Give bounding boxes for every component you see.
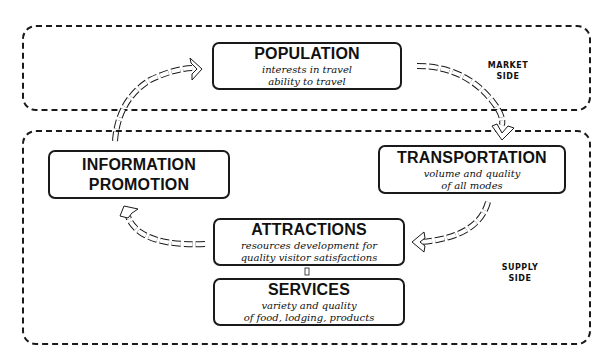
population-title: POPULATION — [254, 44, 360, 64]
node-attractions: ATTRACTIONS resources development for qu… — [213, 218, 405, 266]
node-services: SERVICES variety and quality of food, lo… — [213, 278, 405, 326]
arrow-population-to-transportation — [417, 66, 514, 140]
services-sub-2: of food, lodging, products — [244, 312, 375, 324]
node-population: POPULATION interests in travel ability t… — [212, 42, 402, 90]
transportation-sub-1: volume and quality — [424, 168, 521, 180]
population-sub-2: ability to travel — [268, 76, 346, 88]
attractions-title: ATTRACTIONS — [251, 220, 367, 240]
node-transportation: TRANSPORTATION volume and quality of all… — [378, 145, 566, 194]
attractions-sub-1: resources development for — [241, 240, 377, 252]
arrow-information-to-population — [115, 58, 202, 141]
connector-attractions-services — [305, 268, 309, 275]
arrow-attractions-to-information — [120, 206, 205, 244]
arrowhead-up-left-icon — [120, 206, 138, 218]
arrow-transportation-to-attractions — [412, 202, 488, 252]
node-information-promotion: INFORMATION PROMOTION — [48, 150, 230, 199]
services-sub-1: variety and quality — [261, 300, 356, 312]
services-title: SERVICES — [268, 280, 350, 300]
attractions-sub-2: quality visitor satisfactions — [241, 252, 378, 264]
arrowhead-down-right-icon — [492, 124, 514, 140]
information-title: INFORMATION — [82, 155, 196, 175]
transportation-sub-2: of all modes — [441, 180, 502, 192]
promotion-title: PROMOTION — [89, 175, 189, 195]
population-sub-1: interests in travel — [262, 64, 352, 76]
transportation-title: TRANSPORTATION — [397, 148, 547, 168]
